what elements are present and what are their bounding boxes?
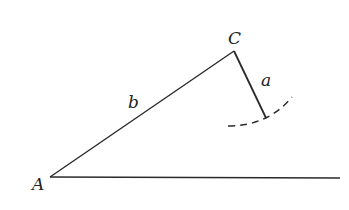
vertex-label-c: C [228, 28, 241, 48]
triangle-diagram: A C b a [0, 0, 349, 210]
side-label-b: b [128, 92, 139, 112]
side-b [50, 51, 234, 177]
side-label-a: a [261, 70, 271, 90]
dashed-arc [228, 97, 292, 126]
vertex-label-a: A [30, 174, 44, 194]
base-line [50, 177, 340, 178]
